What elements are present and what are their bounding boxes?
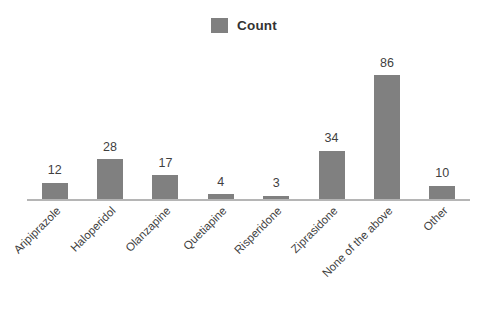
bar-value-label: 86 xyxy=(380,57,394,70)
category-label-slot: Haloperidol xyxy=(82,203,137,303)
x-axis-category-labels: AripiprazoleHaloperidolOlanzapineQuetiap… xyxy=(27,203,470,303)
chart-legend: Count xyxy=(0,18,488,33)
bar-value-label: 34 xyxy=(325,132,339,145)
bar-slot: 12 xyxy=(27,55,82,200)
bar-chart: Count 12281743348610 AripiprazoleHaloper… xyxy=(0,0,488,310)
category-label-slot: None of the above xyxy=(359,203,414,303)
category-label-text: Other xyxy=(422,205,450,233)
legend-label-count: Count xyxy=(237,19,277,33)
bar-value-label: 3 xyxy=(273,177,280,190)
bar[interactable] xyxy=(374,75,400,200)
bar-value-label: 28 xyxy=(103,141,117,154)
bar-value-label: 4 xyxy=(217,176,224,189)
category-label-slot: Olanzapine xyxy=(138,203,193,303)
category-label-slot: Other xyxy=(415,203,470,303)
category-label-text: Aripiprazole xyxy=(12,205,63,256)
bar-value-label: 17 xyxy=(158,157,172,170)
bar[interactable] xyxy=(319,151,345,200)
bar-value-label: 12 xyxy=(48,164,62,177)
category-label-slot: Aripiprazole xyxy=(27,203,82,303)
legend-swatch-count xyxy=(211,18,228,33)
